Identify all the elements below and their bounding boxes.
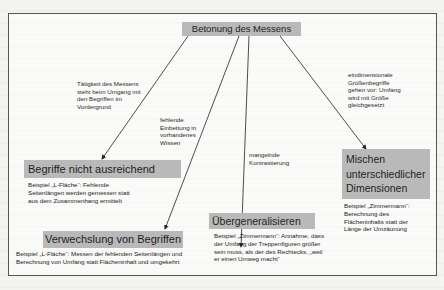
root-node: Betonung des Messens (182, 22, 301, 36)
node-begriffe-nicht-ausreichend: Begriffe nicht ausreichend (24, 160, 181, 178)
example-verwechslung-von-begriffen: Beispiel „L-Fläche“: Messen der fehlende… (16, 250, 182, 266)
edge-label-2: fehlende Einbettung in vorhandenes Wisse… (160, 116, 196, 146)
edge-label-4: eindimensionale Größenbegriffe gehen vor… (348, 71, 401, 109)
example-mischen-unterschiedlicher-dimensionen: Beispiel „Zimmermann“: Berechnung des Fl… (344, 202, 410, 233)
edge-label-3: mangelnde Kontrastierung (249, 151, 289, 166)
example-begriffe-nicht-ausreichend: Beispiel „L-Fläche“: Fehlende Seitenläng… (28, 181, 130, 204)
root-node-title: Betonung des Messens (192, 23, 291, 34)
node-verwechslung-von-begriffen: Verwechslung von Begriffen (43, 231, 183, 248)
edge-label-1: Tätigkeit des Messens steht beim Umgang … (77, 80, 141, 110)
example-uebergeneralisieren: Beispiel „Zimmermann“: Annahme, dass der… (214, 232, 324, 263)
node-uebergeneralisieren: Übergeneralisieren (209, 213, 315, 229)
node-mischen-unterschiedlicher-dimensionen: Mischen unterschiedlicher Dimensionen (342, 149, 430, 199)
